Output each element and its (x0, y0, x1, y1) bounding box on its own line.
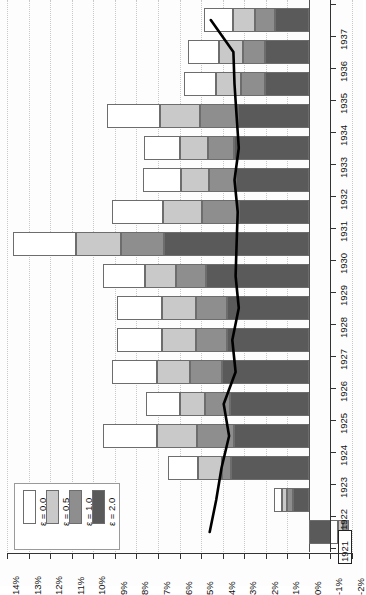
category-label-1936: 1936 (338, 52, 350, 82)
legend-swatch (69, 490, 82, 524)
category-label-1929: 1929 (338, 276, 350, 306)
category-label-1937: 1937 (338, 20, 350, 50)
bar-segment (275, 8, 308, 32)
bar-segment (196, 296, 227, 320)
bar-segment (233, 8, 255, 32)
bar-row (0, 424, 329, 448)
category-label-1926: 1926 (338, 372, 350, 402)
bar-segment (143, 168, 181, 192)
value-tick-label: 5% (205, 561, 215, 595)
bar-segment (112, 360, 157, 384)
bar-segment (146, 392, 179, 416)
bar-segment (103, 264, 145, 288)
category-tick (330, 164, 336, 165)
category-label-1932: 1932 (338, 180, 350, 210)
bar-segment (197, 424, 235, 448)
value-tick-label: 9% (119, 561, 129, 595)
bar-segment (287, 488, 292, 512)
category-tick (330, 324, 336, 325)
bar-row (0, 200, 329, 224)
category-tick (330, 260, 336, 261)
value-tick (352, 553, 353, 559)
value-tick (115, 553, 116, 559)
legend-swatch (23, 490, 36, 524)
value-tick (223, 553, 224, 559)
category-label-1934: 1934 (338, 116, 350, 146)
value-tick (309, 553, 310, 559)
bar-segment (117, 296, 162, 320)
bar-row (0, 296, 329, 320)
bar-segment (200, 104, 238, 128)
bar-segment (181, 168, 209, 192)
category-label-1928: 1928 (338, 308, 350, 338)
bar-segment (196, 328, 227, 352)
value-tick-label: 11% (76, 561, 86, 595)
value-tick-label: 7% (162, 561, 172, 595)
bar-segment (164, 232, 308, 256)
bar-segment (230, 392, 309, 416)
value-tick-label: 14% (11, 561, 21, 595)
bar-segment (157, 360, 190, 384)
bar-segment (222, 456, 232, 480)
value-tick (93, 553, 94, 559)
bar-segment (180, 392, 206, 416)
category-label-1930: 1930 (338, 244, 350, 274)
bar-segment (145, 264, 176, 288)
value-tick-label: 0% (313, 561, 323, 595)
bar-segment (241, 72, 265, 96)
value-tick-label: -2% (356, 561, 366, 595)
value-tick (7, 553, 8, 559)
bar-segment (208, 136, 235, 160)
bar-segment (198, 456, 222, 480)
category-tick (330, 388, 336, 389)
bar-segment (255, 8, 275, 32)
bar-segment (234, 424, 308, 448)
value-tick-label: 2% (270, 561, 280, 595)
category-tick (330, 484, 336, 485)
value-tick (266, 553, 267, 559)
value-tick (201, 553, 202, 559)
bar-segment (243, 40, 265, 64)
category-tick (330, 68, 336, 69)
category-label-1923: 1923 (338, 468, 350, 498)
value-tick-label: 1% (291, 561, 301, 595)
bar-segment (157, 424, 197, 448)
bar-segment (121, 232, 164, 256)
bar-segment (282, 488, 287, 512)
category-label-1925: 1925 (338, 404, 350, 434)
bar-segment (117, 328, 162, 352)
bar-segment (107, 104, 160, 128)
legend-label: ε = 2.0 (106, 486, 117, 526)
legend-swatch (46, 490, 59, 524)
bar-segment (112, 200, 164, 224)
value-tick (330, 553, 331, 559)
value-tick-label: 6% (184, 561, 194, 595)
bar-row (0, 392, 329, 416)
category-tick (330, 100, 336, 101)
value-tick (287, 553, 288, 559)
value-tick (136, 553, 137, 559)
bar-segment (160, 104, 200, 128)
legend-item: ε = 1.0 (69, 490, 85, 526)
plot-area (0, 0, 363, 552)
legend-item: ε = 0.5 (46, 490, 62, 526)
category-tick (330, 420, 336, 421)
bar-segment (204, 8, 233, 32)
category-label-1922: 1922 (338, 500, 350, 530)
bar-segment (176, 264, 206, 288)
bar-row (0, 40, 329, 64)
bar-row (0, 456, 329, 480)
category-label-1933: 1933 (338, 148, 350, 178)
category-tick (330, 132, 336, 133)
value-tick (72, 553, 73, 559)
bar-segment (274, 488, 282, 512)
bar-segment (162, 296, 195, 320)
bar-segment (13, 232, 76, 256)
bar-segment (162, 328, 195, 352)
legend-item: ε = 2.0 (92, 490, 108, 526)
category-label-1927: 1927 (338, 340, 350, 370)
bar-segment (205, 392, 230, 416)
bar-segment (219, 40, 243, 64)
bar-segment (168, 456, 198, 480)
